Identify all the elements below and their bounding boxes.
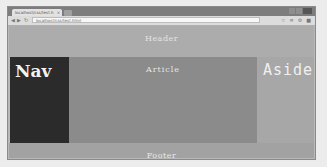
article-label: Article	[146, 65, 180, 74]
aside-label: Aside	[263, 61, 313, 79]
bookmark-star-icon[interactable]: ☆	[281, 17, 285, 24]
browser-tab[interactable]: localhost/css/test.h ×	[12, 9, 62, 16]
forward-icon[interactable]: ▶	[17, 17, 21, 24]
browser-toolbar: ◀ ▶ ↻ localhost/css/test.html ☆ ≡ ⚙ ■	[8, 16, 315, 26]
back-icon[interactable]: ◀	[11, 17, 15, 24]
page-header: Header	[9, 26, 314, 57]
title-bar: localhost/css/test.h ×	[8, 7, 315, 16]
page-footer: Footer	[9, 143, 314, 158]
minimize-button[interactable]	[289, 8, 295, 14]
browser-window: localhost/css/test.h × ◀ ▶ ↻ localhost/c…	[7, 6, 316, 160]
page-aside: Aside	[257, 57, 314, 143]
tab-title: localhost/css/test.h	[15, 10, 54, 15]
tab-close-icon[interactable]: ×	[57, 9, 60, 16]
settings-icon[interactable]: ⚙	[298, 17, 302, 24]
address-bar[interactable]: localhost/css/test.html	[32, 17, 260, 23]
reload-icon[interactable]: ↻	[24, 17, 28, 24]
nav-label: Nav	[15, 61, 51, 81]
close-window-button[interactable]	[303, 8, 312, 14]
toolbar-icons: ☆ ≡ ⚙ ■	[281, 17, 311, 24]
page-article: Article	[69, 57, 257, 143]
page-viewport: Header Nav Article Aside Footer	[9, 26, 314, 158]
page-nav: Nav	[10, 57, 69, 143]
header-label: Header	[145, 34, 178, 43]
maximize-button[interactable]	[296, 8, 302, 14]
footer-label: Footer	[147, 151, 177, 160]
window-controls	[289, 8, 312, 14]
extension-icon[interactable]: ■	[306, 17, 311, 24]
menu-icon[interactable]: ≡	[290, 17, 294, 24]
